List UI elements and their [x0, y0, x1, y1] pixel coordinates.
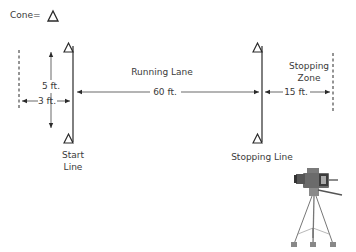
running-distance-label: 60 ft.	[153, 87, 177, 98]
stop-bottom-cone-icon	[253, 134, 262, 143]
stopping-zone-label-line2: Zone	[298, 73, 321, 84]
stopping-zone-label-line1: Stopping	[289, 61, 329, 72]
stopping-line-label: Stopping Line	[231, 152, 293, 163]
legend-cone-icon	[48, 11, 58, 21]
running-lane-label: Running Lane	[131, 67, 193, 78]
start-top-cone-icon	[64, 43, 73, 52]
video-camera-tripod-icon	[291, 168, 342, 247]
start-offset-label: 3 ft.	[38, 96, 56, 107]
legend-label: Cone=	[10, 10, 41, 21]
start-bottom-cone-icon	[64, 134, 73, 143]
stopping-distance-label: 15 ft.	[284, 87, 308, 98]
start-line-label-line1: Start	[62, 150, 84, 161]
field-diagram	[0, 0, 356, 252]
stop-top-cone-icon	[253, 43, 262, 52]
lane-width-label: 5 ft.	[42, 81, 60, 92]
start-line-label-line2: Line	[64, 162, 83, 173]
